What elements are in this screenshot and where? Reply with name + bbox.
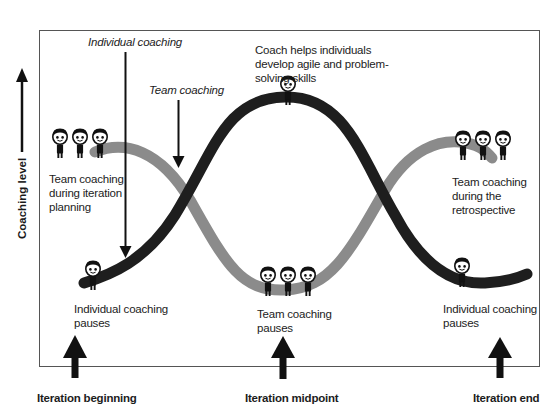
peak-annotation: Coach helps individuals develop agile an…: [255, 43, 455, 85]
planning-annotation: Team coaching during iteration planning: [49, 172, 124, 214]
team-coaching-pointer-arrow-icon: [173, 100, 185, 168]
y-axis-label: Coaching level: [16, 169, 28, 239]
planning-line-2: during iteration: [49, 186, 124, 200]
individual-coaching-pointer-label: Individual coaching: [88, 35, 182, 49]
team-pause-annotation: Team coaching pauses: [257, 307, 332, 335]
timeline-start-label: Iteration beginning: [37, 391, 137, 405]
iteration-beginning-arrow-icon: [63, 335, 87, 378]
indiv-pause-left-line-2: pauses: [74, 316, 168, 330]
indiv-pause-left-line-1: Individual coaching: [74, 302, 168, 316]
individual-coaching-pointer-arrow-icon: [120, 52, 132, 258]
timeline-mid-label: Iteration midpoint: [245, 391, 339, 405]
team-pause-line-1: Team coaching: [257, 307, 332, 321]
cropped-title-remnant: [0, 0, 555, 5]
timeline-end-label: Iteration end: [473, 391, 539, 405]
retro-line-2: during the: [452, 189, 527, 203]
planning-line-1: Team coaching: [49, 172, 124, 186]
indiv-pause-right-annotation: Individual coaching pauses: [443, 302, 537, 330]
team-coaching-pointer-label: Team coaching: [149, 83, 224, 97]
retro-line-1: Team coaching: [452, 175, 527, 189]
indiv-pause-right-line-1: Individual coaching: [443, 302, 537, 316]
coaching-level-arrow-icon: [16, 68, 28, 152]
planning-line-3: planning: [49, 200, 124, 214]
indiv-pause-left-annotation: Individual coaching pauses: [74, 302, 168, 330]
iteration-end-arrow-icon: [488, 337, 512, 378]
peak-annotation-text: Coach helps individuals develop agile an…: [255, 43, 405, 85]
retro-annotation: Team coaching during the retrospective: [452, 175, 527, 217]
team-pause-line-2: pauses: [257, 321, 332, 335]
iteration-midpoint-arrow-icon: [271, 336, 295, 379]
team-planning-people-icon: [53, 128, 108, 158]
indiv-pause-right-line-2: pauses: [443, 316, 537, 330]
retro-line-3: retrospective: [452, 203, 527, 217]
